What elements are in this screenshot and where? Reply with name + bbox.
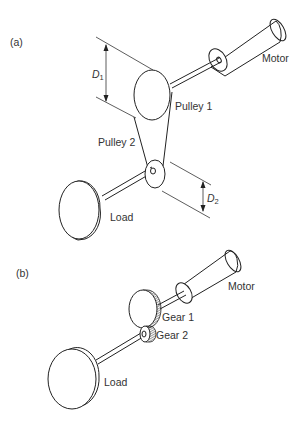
shaft-a-lower [102, 167, 152, 196]
panel-b: (b) Motor Gear 1 Gear 2 [16, 248, 255, 409]
gear-2-label: Gear 2 [156, 329, 188, 341]
load-a-label: Load [110, 211, 134, 223]
shaft-b-lower [96, 333, 141, 360]
gear-1 [129, 290, 161, 328]
gear-1-label: Gear 1 [162, 311, 194, 323]
shaft-a-upper [170, 58, 219, 84]
panel-a-label: (a) [10, 36, 23, 48]
panel-a: (a) Motor Pulley 1 D1 Pulley 2 [10, 17, 289, 240]
load-b-label: Load [104, 376, 128, 388]
belt-left [134, 117, 148, 168]
motor-a-label: Motor [262, 52, 289, 64]
d2-label: D2 [207, 192, 219, 206]
d1-label: D1 [92, 68, 104, 82]
pulley-2-label: Pulley 2 [98, 136, 136, 148]
pulley-1 [134, 70, 170, 120]
drive-train-diagram: (a) Motor Pulley 1 D1 Pulley 2 [0, 0, 303, 421]
motor-b [172, 248, 244, 306]
load-b [48, 348, 99, 409]
motor-a [205, 17, 289, 76]
panel-b-label: (b) [16, 267, 29, 279]
pulley-1-label: Pulley 1 [175, 100, 213, 112]
pulley-2 [145, 160, 165, 188]
gear-2 [140, 326, 156, 342]
load-a [59, 181, 100, 240]
motor-b-label: Motor [228, 280, 255, 292]
